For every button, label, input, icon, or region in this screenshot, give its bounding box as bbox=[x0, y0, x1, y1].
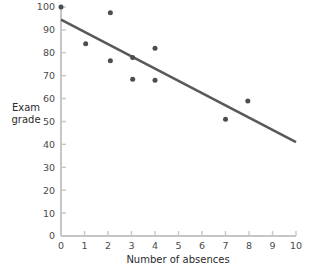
chart-canvas: 0102030405060708090100 012345678910 Numb… bbox=[0, 0, 310, 266]
y-tick-label: 0 bbox=[49, 230, 55, 241]
data-point bbox=[245, 98, 250, 103]
y-tick-label: 70 bbox=[43, 70, 55, 81]
data-point bbox=[108, 10, 113, 15]
x-tick-label: 6 bbox=[199, 240, 205, 251]
x-tick-label: 4 bbox=[152, 240, 158, 251]
y-tick-label: 80 bbox=[43, 47, 55, 58]
data-point bbox=[223, 117, 228, 122]
y-tick-label: 50 bbox=[43, 116, 55, 127]
x-axis-tick-labels: 012345678910 bbox=[58, 240, 302, 251]
data-point bbox=[153, 78, 158, 83]
x-tick-label: 2 bbox=[105, 240, 111, 251]
y-tick-label: 40 bbox=[43, 139, 55, 150]
y-tick-label: 20 bbox=[43, 185, 55, 196]
data-point bbox=[130, 77, 135, 82]
x-tick-label: 0 bbox=[58, 240, 64, 251]
x-tick-label: 10 bbox=[290, 240, 302, 251]
x-tick-label: 1 bbox=[81, 240, 87, 251]
scatter-chart: 0102030405060708090100 012345678910 Numb… bbox=[0, 0, 310, 266]
x-tick-label: 8 bbox=[246, 240, 252, 251]
trend-line bbox=[61, 20, 296, 143]
trend-line-segment bbox=[61, 20, 296, 143]
x-tick-label: 9 bbox=[269, 240, 275, 251]
y-tick-label: 30 bbox=[43, 162, 55, 173]
y-tick-label: 10 bbox=[43, 208, 55, 219]
x-tick-label: 3 bbox=[128, 240, 134, 251]
axes-group bbox=[61, 7, 296, 236]
data-point bbox=[59, 5, 64, 10]
data-point bbox=[153, 46, 158, 51]
y-tick-label: 100 bbox=[37, 1, 55, 12]
x-tick-label: 5 bbox=[175, 240, 181, 251]
data-point bbox=[108, 58, 113, 63]
data-point bbox=[83, 41, 88, 46]
y-tick-label: 90 bbox=[43, 24, 55, 35]
y-tick-label: 60 bbox=[43, 93, 55, 104]
x-axis-title: Number of absences bbox=[126, 254, 229, 265]
y-axis-title-line-1: Exam bbox=[12, 102, 40, 113]
x-tick-label: 7 bbox=[222, 240, 228, 251]
data-point bbox=[130, 55, 135, 60]
y-axis-title-line-2: grade bbox=[11, 114, 40, 125]
